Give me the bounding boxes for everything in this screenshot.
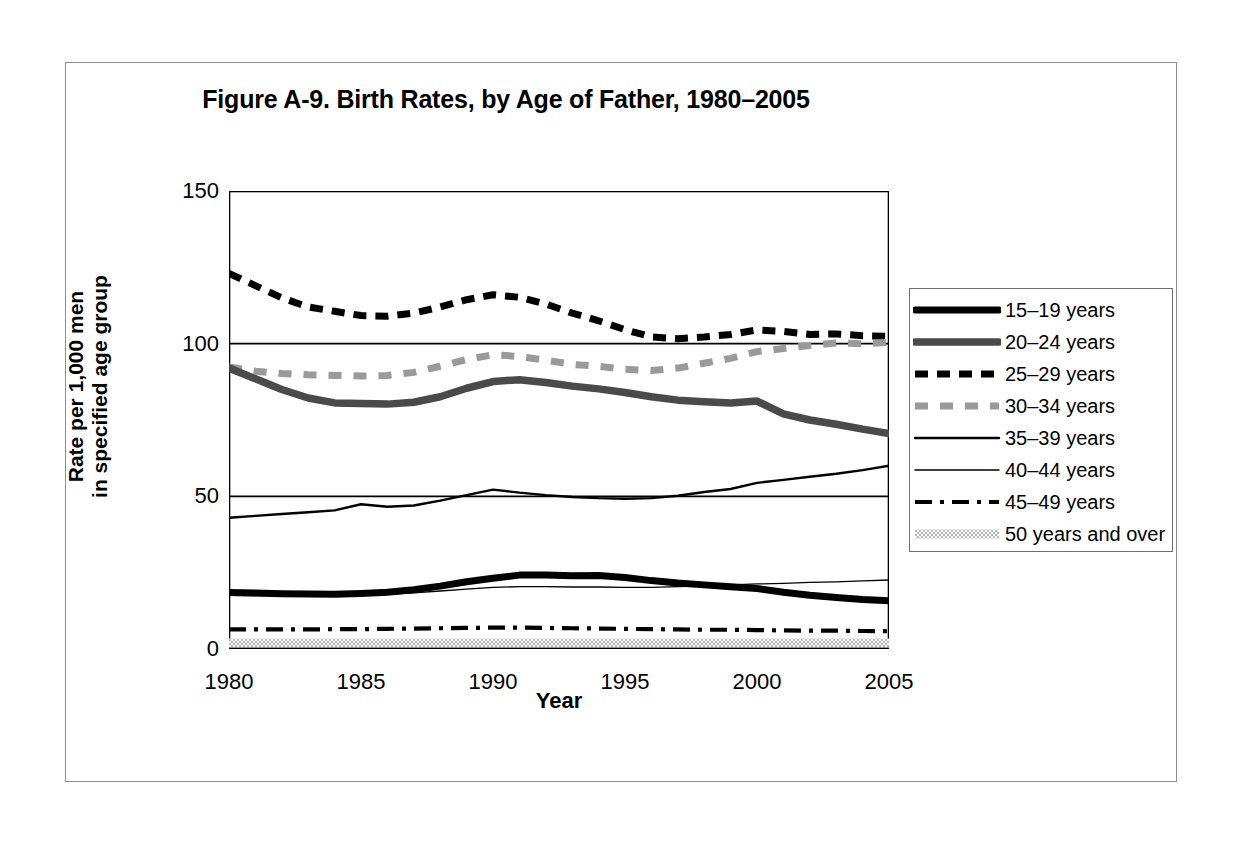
y-axis-title-line1: Rate per 1,000 men — [64, 291, 87, 482]
legend-swatch-icon — [913, 300, 1001, 320]
legend-label: 15–19 years — [1005, 299, 1115, 322]
gridlines — [229, 344, 889, 497]
y-tick-label: 0 — [149, 636, 219, 662]
x-tick-label: 1990 — [448, 669, 538, 695]
legend-swatch-icon — [913, 524, 1001, 544]
series-line-15-19-years — [229, 575, 889, 601]
legend-swatch-icon — [913, 492, 1001, 512]
x-tick-label: 1980 — [184, 669, 274, 695]
series-line-25-29-years — [229, 273, 889, 338]
legend-label: 30–34 years — [1005, 395, 1115, 418]
legend-item[interactable]: 30–34 years — [910, 390, 1172, 422]
y-axis-title-line2: in specified age group — [88, 275, 111, 498]
data-series-group — [229, 273, 889, 647]
legend-item[interactable]: 45–49 years — [910, 486, 1172, 518]
legend-label: 25–29 years — [1005, 363, 1115, 386]
legend-swatch-icon — [913, 332, 1001, 352]
series-line-30-34-years — [229, 342, 889, 376]
legend-label: 20–24 years — [1005, 331, 1115, 354]
legend-label: 45–49 years — [1005, 491, 1115, 514]
legend-item[interactable]: 40–44 years — [910, 454, 1172, 486]
legend-item[interactable]: 15–19 years — [910, 294, 1172, 326]
x-axis-tick-labels: 198019851990199520002005 — [229, 655, 889, 689]
legend-item[interactable]: 50 years and over — [910, 518, 1172, 550]
y-axis-tick-labels: 050100150 — [141, 191, 219, 649]
chart-title: Figure A-9. Birth Rates, by Age of Fathe… — [66, 85, 946, 114]
legend-label: 35–39 years — [1005, 427, 1115, 450]
y-tick-label: 150 — [149, 178, 219, 204]
legend-swatch-icon — [913, 364, 1001, 384]
figure-frame: Figure A-9. Birth Rates, by Age of Fathe… — [65, 62, 1177, 782]
legend-label: 40–44 years — [1005, 459, 1115, 482]
series-line-35-39-years — [229, 466, 889, 518]
legend-item[interactable]: 20–24 years — [910, 326, 1172, 358]
y-axis-title: Rate per 1,000 men in specified age grou… — [64, 237, 111, 537]
plot-area — [229, 191, 889, 649]
y-tick-label: 50 — [149, 483, 219, 509]
x-tick-label: 1985 — [316, 669, 406, 695]
y-tick-label: 100 — [149, 331, 219, 357]
x-tick-label: 2000 — [712, 669, 802, 695]
series-line-45-49-years — [229, 628, 889, 632]
legend-swatch-icon — [913, 460, 1001, 480]
legend-label: 50 years and over — [1005, 523, 1165, 546]
legend: 15–19 years20–24 years25–29 years30–34 y… — [909, 288, 1173, 552]
series-line-20-24-years — [229, 368, 889, 433]
plot-border — [230, 192, 889, 649]
x-tick-label: 2005 — [844, 669, 934, 695]
legend-swatch-icon — [913, 396, 1001, 416]
legend-item[interactable]: 25–29 years — [910, 358, 1172, 390]
x-tick-label: 1995 — [580, 669, 670, 695]
legend-item[interactable]: 35–39 years — [910, 422, 1172, 454]
legend-swatch-icon — [913, 428, 1001, 448]
line-chart-svg — [229, 191, 889, 649]
